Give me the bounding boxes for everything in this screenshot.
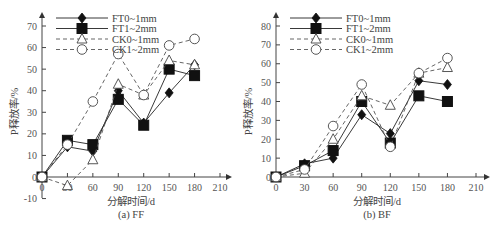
circle-marker-icon (139, 90, 149, 100)
circle-marker-icon (357, 80, 367, 90)
x-tick-label: 90 (357, 182, 367, 193)
circle-marker-icon (443, 53, 453, 63)
x-tick-label: 120 (136, 182, 151, 193)
x-tick-label: 180 (440, 182, 455, 193)
y-tick-label: 20 (261, 134, 271, 145)
legend-label: FT1~2mm (112, 23, 157, 34)
chart-panel-ff: -100102030405060700306090120150180210分解时… (8, 12, 232, 221)
series-ft12mm (271, 91, 452, 182)
y-axis-label: P释放率/% (8, 88, 20, 136)
x-tick-label: 210 (469, 182, 484, 193)
square-marker-icon (139, 120, 149, 130)
legend-label: FT0~1mm (112, 13, 157, 24)
triangle-marker-icon (88, 154, 98, 164)
triangle-marker-icon (357, 90, 367, 100)
x-axis-label: 分解时间/d (353, 195, 402, 207)
y-axis-arrow-icon (273, 12, 279, 18)
legend-item: CK0~1mm (56, 34, 159, 45)
y-tick-label: 40 (261, 96, 271, 107)
legend-label: CK0~1mm (346, 34, 393, 45)
triangle-marker-icon (164, 55, 174, 64)
square-marker-icon (442, 97, 452, 107)
legend-item: FT0~1mm (56, 13, 157, 24)
series-ck01mm (37, 55, 200, 190)
chart-panel-bf: 010203040506070800306090120150180210分解时间… (242, 12, 490, 221)
circle-marker-icon (328, 121, 338, 131)
legend-item: FT0~1mm (290, 13, 391, 24)
legend-item: CK0~1mm (290, 34, 393, 45)
y-tick-label: 30 (261, 115, 271, 126)
circle-marker-icon (414, 68, 424, 78)
x-tick-label: 60 (328, 182, 338, 193)
x-tick-label: 0 (274, 182, 279, 193)
x-tick-label: 210 (213, 182, 228, 193)
circle-marker-icon (385, 142, 395, 152)
legend-label: FT1~2mm (346, 23, 391, 34)
triangle-marker-icon (77, 34, 87, 44)
circle-marker-icon (88, 97, 98, 107)
y-tick-label: 80 (261, 21, 271, 32)
triangle-marker-icon (442, 62, 452, 72)
y-tick-label: 60 (27, 42, 37, 53)
legend-label: FT0~1mm (346, 13, 391, 24)
x-tick-label: 30 (300, 182, 310, 193)
square-marker-icon (164, 64, 174, 74)
square-marker-icon (113, 94, 123, 104)
x-axis-label: 分解时间/d (107, 195, 156, 207)
y-axis-arrow-icon (39, 12, 45, 18)
triangle-marker-icon (385, 100, 395, 110)
square-marker-icon (328, 146, 338, 156)
square-marker-icon (190, 71, 200, 81)
circle-marker-icon (164, 41, 174, 51)
y-tick-label: 50 (261, 77, 271, 88)
x-tick-label: 150 (411, 182, 426, 193)
x-tick-label: 120 (383, 182, 398, 193)
y-tick-label: 0 (32, 172, 37, 183)
y-tick-label: 70 (261, 39, 271, 50)
legend-item: CK1~2mm (56, 44, 159, 55)
y-tick-label: -10 (24, 193, 37, 204)
legend-item: CK1~2mm (290, 44, 393, 55)
x-axis-arrow-icon (484, 174, 490, 180)
y-tick-label: 10 (261, 153, 271, 164)
x-tick-label: 90 (113, 182, 123, 193)
triangle-marker-icon (113, 79, 123, 89)
legend-item: FT1~2mm (56, 23, 157, 34)
square-marker-icon (414, 91, 424, 101)
y-tick-label: 60 (261, 58, 271, 69)
circle-marker-icon (311, 45, 321, 55)
y-tick-label: 70 (27, 21, 37, 32)
circle-marker-icon (63, 140, 73, 150)
circle-marker-icon (37, 172, 47, 182)
x-axis-arrow-icon (226, 174, 232, 180)
x-tick-label: 150 (162, 182, 177, 193)
y-tick-label: 0 (266, 172, 271, 183)
square-marker-icon (88, 140, 98, 150)
panel-caption: (b) BF (363, 209, 391, 221)
x-tick-label: 60 (88, 182, 98, 193)
y-tick-label: 50 (27, 64, 37, 75)
square-marker-icon (311, 24, 321, 34)
y-tick-label: 30 (27, 107, 37, 118)
y-tick-label: 40 (27, 85, 37, 96)
legend-label: CK1~2mm (346, 44, 393, 55)
legend-label: CK0~1mm (112, 34, 159, 45)
circle-marker-icon (271, 172, 281, 182)
chart-figure: -100102030405060700306090120150180210分解时… (0, 0, 497, 228)
y-axis-label: P释放率/% (242, 88, 254, 136)
diamond-marker-icon (312, 13, 320, 23)
diamond-marker-icon (78, 13, 86, 23)
triangle-marker-icon (311, 34, 321, 44)
diamond-marker-icon (443, 80, 451, 90)
triangle-marker-icon (328, 134, 338, 144)
legend-label: CK1~2mm (112, 44, 159, 55)
circle-marker-icon (190, 34, 200, 44)
y-tick-label: 20 (27, 128, 37, 139)
diamond-marker-icon (386, 129, 394, 139)
circle-marker-icon (300, 165, 310, 175)
panel-caption: (a) FF (118, 209, 144, 221)
circle-marker-icon (77, 45, 87, 55)
legend-item: FT1~2mm (290, 23, 391, 34)
x-tick-label: 0 (40, 182, 45, 193)
x-tick-label: 180 (187, 182, 202, 193)
